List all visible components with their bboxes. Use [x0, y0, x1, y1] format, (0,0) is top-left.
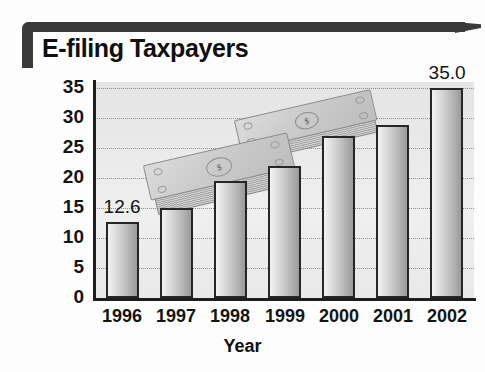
x-tick-label-2001: 2001: [365, 306, 421, 327]
y-tick-label: 30: [42, 106, 84, 128]
bar-1997: [160, 208, 193, 298]
dollar-sign-glyph: $: [293, 110, 320, 132]
x-axis-line: [93, 298, 476, 301]
x-tick-label-1996: 1996: [94, 306, 150, 327]
bar-2000: [322, 136, 355, 298]
x-tick-label-1997: 1997: [148, 306, 204, 327]
x-tick-label-2000: 2000: [311, 306, 367, 327]
y-tick-label: 0: [42, 286, 84, 308]
bar-1996: [106, 222, 139, 298]
y-tick-label: 15: [42, 196, 84, 218]
y-tick-label: 20: [42, 166, 84, 188]
data-label-2002: 35.0: [420, 62, 474, 84]
frame-top-bar: [22, 22, 465, 32]
y-tick-label: 10: [42, 226, 84, 248]
bar-1999: [268, 166, 301, 298]
chart-figure: E-filing Taxpayers $ $: [0, 0, 485, 372]
x-tick-label-1999: 1999: [257, 306, 313, 327]
x-axis-title: Year: [0, 336, 485, 357]
dollar-sign-glyph: $: [204, 155, 234, 179]
gridline: [95, 88, 474, 89]
y-tick-label: 25: [42, 136, 84, 158]
bar-2001: [376, 125, 409, 298]
plot-area: $ $: [95, 82, 474, 298]
bar-2002: [430, 88, 463, 298]
y-tick-label: 5: [42, 256, 84, 278]
chart-title: E-filing Taxpayers: [42, 34, 248, 63]
y-tick-label: 35: [42, 76, 84, 98]
x-tick-label-1998: 1998: [202, 306, 258, 327]
frame-taper-tip: [455, 22, 481, 33]
data-label-1996: 12.6: [95, 196, 149, 218]
bar-1998: [214, 181, 247, 298]
x-tick-label-2002: 2002: [419, 306, 475, 327]
y-axis-line: [93, 80, 96, 300]
